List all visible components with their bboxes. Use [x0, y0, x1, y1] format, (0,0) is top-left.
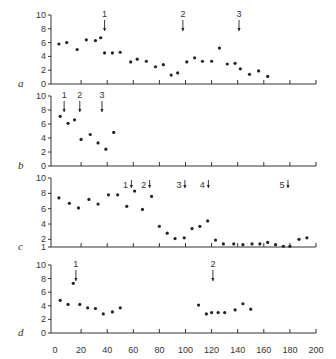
data-point	[218, 47, 221, 50]
data-point	[59, 115, 62, 118]
data-point	[257, 69, 260, 72]
event-marker-label: 2	[210, 259, 215, 269]
data-point	[80, 138, 83, 141]
y-tick-label: 2	[41, 234, 46, 244]
data-point	[297, 238, 300, 241]
data-point	[111, 51, 114, 54]
event-marker-label: 3	[236, 9, 241, 19]
data-point	[133, 189, 136, 192]
event-marker-1: 1	[73, 259, 78, 281]
data-point	[258, 242, 261, 245]
event-marker-label: 1	[102, 9, 107, 19]
data-point	[73, 118, 76, 121]
event-marker-label: 5	[279, 180, 284, 190]
event-marker-5: 5	[279, 180, 289, 190]
event-marker-4: 4	[200, 180, 210, 190]
event-marker-label: 2	[141, 180, 146, 190]
data-point	[239, 67, 242, 70]
data-point	[141, 208, 144, 211]
data-point	[129, 60, 132, 63]
data-point	[145, 60, 148, 63]
data-point	[59, 299, 62, 302]
data-point	[288, 245, 291, 248]
arrowhead-icon	[130, 185, 133, 188]
arrowhead-icon	[207, 185, 210, 188]
data-point	[193, 56, 196, 59]
x-tick-label: 0	[52, 345, 57, 355]
y-tick-label: 10	[36, 260, 46, 270]
event-marker-label: 3	[176, 180, 181, 190]
y-tick-label: 6	[41, 119, 46, 129]
data-point	[233, 62, 236, 65]
data-point	[125, 205, 128, 208]
y-tick-label: 4	[41, 219, 46, 229]
data-point	[205, 312, 208, 315]
data-point	[214, 239, 217, 242]
data-point	[66, 303, 69, 306]
data-point	[57, 196, 60, 199]
data-point	[65, 41, 68, 44]
data-point	[104, 148, 107, 151]
data-point	[197, 304, 200, 307]
data-point	[68, 202, 71, 205]
data-point	[166, 232, 169, 235]
x-tick-label: 20	[76, 345, 86, 355]
data-point	[198, 225, 201, 228]
data-point	[266, 75, 269, 78]
event-marker-2: 2	[77, 90, 82, 112]
panel-label: d	[18, 326, 24, 338]
x-tick-label: 140	[230, 345, 245, 355]
data-point	[250, 242, 253, 245]
data-point	[119, 306, 122, 309]
event-marker-label: 4	[200, 180, 205, 190]
data-point	[99, 36, 102, 39]
event-marker-label: 2	[180, 9, 185, 19]
data-point	[89, 133, 92, 136]
data-point	[119, 51, 122, 54]
arrowhead-icon	[63, 109, 66, 112]
data-point	[190, 227, 193, 230]
event-marker-label: 3	[99, 90, 104, 100]
data-point	[66, 122, 69, 125]
y-tick-label: 8	[41, 188, 46, 198]
arrowhead-icon	[103, 28, 106, 31]
event-marker-label: 1	[73, 259, 78, 269]
data-point	[162, 63, 165, 66]
data-point	[183, 236, 186, 239]
data-point	[103, 51, 106, 54]
panel-b: 0246810b123	[18, 90, 316, 171]
data-point	[210, 311, 213, 314]
event-marker-1: 1	[62, 90, 67, 112]
data-point	[233, 308, 236, 311]
data-point	[248, 73, 251, 76]
y-tick-label: 8	[41, 105, 46, 115]
arrowhead-icon	[78, 109, 81, 112]
data-point	[154, 65, 157, 68]
data-point	[241, 243, 244, 246]
data-point	[232, 242, 235, 245]
event-marker-label: 1	[62, 90, 67, 100]
data-point	[185, 60, 188, 63]
arrowhead-icon	[74, 278, 77, 281]
data-point	[241, 302, 244, 305]
data-point	[305, 236, 308, 239]
x-tick-label: 40	[102, 345, 112, 355]
panel-label: a	[18, 77, 24, 89]
data-point	[210, 60, 213, 63]
data-point	[226, 62, 229, 65]
event-marker-3: 3	[99, 90, 104, 112]
y-tick-label: 8	[41, 24, 46, 34]
arrowhead-icon	[100, 109, 103, 112]
arrowhead-icon	[211, 278, 214, 281]
data-point	[222, 242, 225, 245]
data-point	[102, 312, 105, 315]
y-tick-label: 4	[41, 133, 46, 143]
y-tick-label: 0	[41, 79, 46, 89]
data-point	[158, 225, 161, 228]
event-marker-2: 2	[180, 9, 185, 31]
data-point	[86, 306, 89, 309]
y-tick-label: 6	[41, 204, 46, 214]
panel-d: 0246810020406080100120140160180200d12	[18, 259, 324, 355]
data-point	[266, 241, 269, 244]
event-marker-3: 3	[236, 9, 241, 31]
